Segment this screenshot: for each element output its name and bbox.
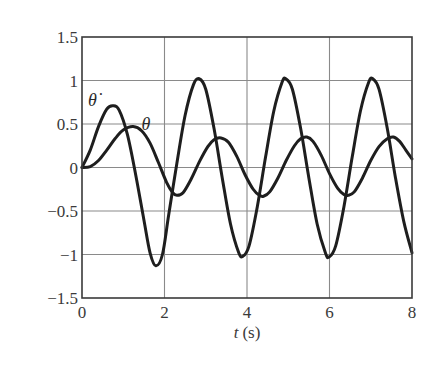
x-axis-label: t(s): [234, 323, 261, 342]
chart: 1.510.50−0.5−1−1.5 02468 t(s) θ̇θ: [0, 0, 439, 365]
x-tick-label: 6: [325, 303, 334, 322]
theta-label: θ: [142, 114, 151, 134]
y-tick-label: −0.5: [47, 202, 78, 221]
x-tick-label: 0: [78, 303, 87, 322]
x-axis-label-variable: t: [234, 323, 240, 342]
x-axis-label-unit: (s): [242, 323, 260, 342]
x-tick-label: 4: [243, 303, 252, 322]
x-tick-label: 8: [408, 303, 417, 322]
y-tick-label: 1.5: [57, 28, 78, 47]
x-axis-tick-labels: 02468: [78, 303, 417, 322]
y-tick-label: 0: [70, 159, 79, 178]
y-tick-label: 1: [70, 72, 79, 91]
theta-dot-label: θ̇: [88, 90, 103, 110]
y-tick-label: 0.5: [57, 115, 78, 134]
grid-lines: [82, 37, 412, 298]
x-tick-label: 2: [160, 303, 169, 322]
y-axis-tick-labels: 1.510.50−0.5−1−1.5: [47, 28, 78, 308]
y-tick-label: −1: [60, 246, 78, 265]
y-tick-label: −1.5: [47, 289, 78, 308]
